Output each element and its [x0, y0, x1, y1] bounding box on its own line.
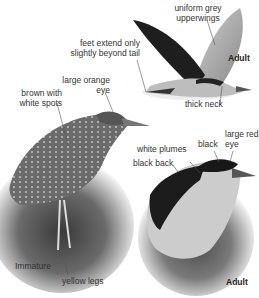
label-line-1: feet extend only	[55, 38, 140, 48]
label-large-red-eye: large red eye	[225, 129, 259, 149]
label-uniform-grey: uniform grey upperwings	[158, 3, 238, 23]
label-white-plumes: white plumes	[137, 144, 187, 154]
label-large-orange-eye: large orange eye	[55, 75, 110, 95]
label-line-1: brown with	[10, 88, 62, 98]
label-line-2: upperwings	[158, 13, 238, 23]
label-line-2: white spots	[10, 98, 62, 108]
label-black-back: black back	[133, 158, 173, 168]
label-brown-white-spots: brown with white spots	[10, 88, 62, 108]
label-yellow-legs: yellow legs	[62, 276, 104, 286]
label-line-1: large red	[225, 129, 259, 139]
label-adult-flight: Adult	[228, 53, 250, 63]
label-feet-extend: feet extend only slightly beyond tail	[55, 38, 140, 58]
label-line-1: uniform grey	[158, 3, 238, 13]
label-line-2: slightly beyond tail	[55, 48, 140, 58]
label-immature: Immature	[15, 261, 51, 271]
label-line-2: eye	[225, 139, 259, 149]
label-thick-neck: thick neck	[185, 99, 223, 109]
label-line-1: large orange	[55, 75, 110, 85]
label-adult-perched: Adult	[226, 277, 248, 287]
label-black: black	[198, 139, 218, 149]
adult-perched	[138, 159, 256, 296]
label-line-2: eye	[55, 85, 110, 95]
